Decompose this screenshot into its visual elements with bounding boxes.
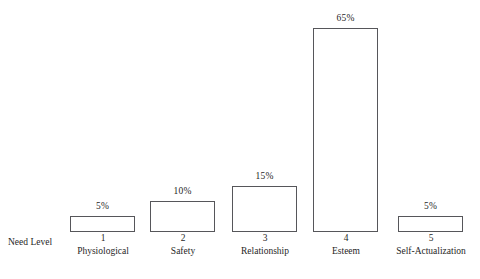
axis-tick-label: Self-Actualization	[385, 245, 477, 258]
axis-tick-physiological: 1 Physiological	[62, 232, 144, 258]
bar-value-label: 5%	[398, 201, 463, 212]
axis-tick-number: 4	[305, 232, 387, 245]
plot-area: 5% 10% 15% 65% 5%	[0, 0, 480, 232]
bar-chart: 5% 10% 15% 65% 5% Need Level 1 Physiolog…	[0, 0, 480, 279]
axis-tick-number: 2	[142, 232, 224, 245]
bar-self-actualization	[398, 216, 463, 232]
axis-tick-self-actualization: 5 Self-Actualization	[385, 232, 477, 258]
bar-group: 5%	[70, 0, 135, 232]
bar-physiological	[70, 216, 135, 232]
bar-group: 65%	[313, 0, 378, 232]
axis-tick-label: Esteem	[305, 245, 387, 258]
axis-tick-safety: 2 Safety	[142, 232, 224, 258]
bar-value-label: 65%	[313, 13, 378, 24]
bar-safety	[150, 201, 215, 232]
axis-title-need-level: Need Level	[8, 236, 52, 248]
bar-group: 15%	[232, 0, 297, 232]
bar-esteem	[313, 28, 378, 232]
bar-value-label: 5%	[70, 201, 135, 212]
bar-relationship	[232, 186, 297, 232]
bar-value-label: 10%	[150, 186, 215, 197]
axis-tick-number: 3	[224, 232, 306, 245]
axis-tick-number: 1	[62, 232, 144, 245]
bar-group: 5%	[398, 0, 463, 232]
bar-group: 10%	[150, 0, 215, 232]
axis-tick-label: Relationship	[224, 245, 306, 258]
bar-value-label: 15%	[232, 171, 297, 182]
axis-tick-relationship: 3 Relationship	[224, 232, 306, 258]
axis-tick-esteem: 4 Esteem	[305, 232, 387, 258]
axis-tick-number: 5	[385, 232, 477, 245]
axis-tick-label: Safety	[142, 245, 224, 258]
axis-tick-label: Physiological	[62, 245, 144, 258]
category-axis: Need Level 1 Physiological 2 Safety 3 Re…	[0, 232, 480, 279]
